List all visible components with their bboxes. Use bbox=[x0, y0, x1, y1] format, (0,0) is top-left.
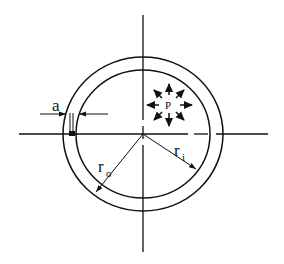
inner-radius-subscript: i bbox=[182, 151, 185, 163]
outer-radius-subscript: o bbox=[106, 167, 112, 179]
outer-radius-label: r bbox=[98, 157, 104, 176]
inner-radius-arrow bbox=[143, 134, 196, 169]
crack bbox=[69, 113, 75, 136]
pipe-crack-diagram: a P r o r i bbox=[0, 0, 284, 264]
diagram-svg: a P r o r i bbox=[0, 0, 284, 264]
inner-radius-label: r bbox=[174, 141, 180, 160]
crack-depth-label: a bbox=[52, 96, 60, 115]
pressure-label: P bbox=[165, 99, 171, 111]
